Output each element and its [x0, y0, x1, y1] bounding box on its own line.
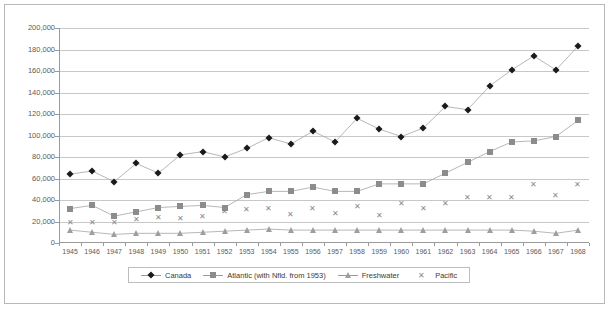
y-axis-tick-mark: [55, 93, 59, 94]
x-axis-tick-mark: [346, 243, 347, 246]
y-axis-tick-mark: [55, 136, 59, 137]
x-axis-tick-mark: [545, 243, 546, 246]
y-axis: 200,000180,000160,000140,000120,000100,0…: [5, 28, 55, 243]
chart-legend: CanadaAtlantic (with Nfld. from 1953)Fre…: [128, 267, 470, 283]
legend-entry: Canada: [141, 271, 191, 280]
x-axis-tick-mark: [479, 243, 480, 246]
legend-marker: [147, 271, 154, 278]
y-axis-tick-mark: [55, 114, 59, 115]
y-axis-tick-mark: [55, 179, 59, 180]
y-axis-tick-label: 180,000: [7, 46, 55, 54]
y-axis-tick-mark: [55, 222, 59, 223]
gridline: [60, 28, 589, 29]
gridline: [60, 157, 589, 158]
x-axis-tick-mark: [59, 243, 60, 246]
x-axis-tick-mark: [412, 243, 413, 246]
x-axis-tick-mark: [523, 243, 524, 246]
chart-root: 200,000180,000160,000140,000120,000100,0…: [0, 0, 611, 310]
x-axis-tick-mark: [214, 243, 215, 246]
x-axis-tick-mark: [103, 243, 104, 246]
y-axis-tick-mark: [55, 157, 59, 158]
x-axis-tick-mark: [258, 243, 259, 246]
gridline: [60, 200, 589, 201]
legend-swatch: [338, 271, 358, 280]
y-axis-tick-label: 20,000: [7, 218, 55, 226]
y-axis-tick-label: 140,000: [7, 89, 55, 97]
gridline: [60, 222, 589, 223]
x-axis-tick-label: 1968: [563, 247, 593, 256]
legend-marker: ✕: [418, 272, 425, 279]
legend-entry: ✕Pacific: [411, 271, 457, 280]
legend-entry: Freshwater: [338, 271, 400, 280]
y-axis-tick-label: 80,000: [7, 153, 55, 161]
legend-swatch: [141, 271, 161, 280]
legend-label: Freshwater: [362, 271, 400, 280]
legend-swatch: [203, 271, 223, 280]
x-axis-tick-mark: [147, 243, 148, 246]
gridline: [60, 179, 589, 180]
x-axis-tick-mark: [589, 243, 590, 246]
y-axis-tick-label: 0: [7, 239, 55, 247]
y-axis-tick-label: 160,000: [7, 67, 55, 75]
legend-label: Pacific: [435, 271, 457, 280]
x-axis-tick-mark: [192, 243, 193, 246]
x-axis-tick-mark: [169, 243, 170, 246]
y-axis-tick-label: 120,000: [7, 110, 55, 118]
legend-label: Atlantic (with Nfld. from 1953): [227, 271, 325, 280]
x-axis-tick-mark: [457, 243, 458, 246]
y-axis-tick-label: 40,000: [7, 196, 55, 204]
y-axis-tick-mark: [55, 28, 59, 29]
x-axis-tick-mark: [324, 243, 325, 246]
y-axis-tick-label: 100,000: [7, 132, 55, 140]
y-axis-tick-mark: [55, 200, 59, 201]
gridline: [60, 93, 589, 94]
gridline: [60, 136, 589, 137]
x-axis-tick-mark: [434, 243, 435, 246]
x-axis-tick-mark: [567, 243, 568, 246]
x-axis-tick-mark: [390, 243, 391, 246]
x-axis-tick-mark: [302, 243, 303, 246]
x-axis-tick-mark: [81, 243, 82, 246]
legend-label: Canada: [165, 271, 191, 280]
x-axis-tick-mark: [280, 243, 281, 246]
legend-marker: [345, 272, 351, 278]
x-axis-tick-mark: [501, 243, 502, 246]
gridline: [60, 114, 589, 115]
x-axis-tick-mark: [236, 243, 237, 246]
legend-swatch: ✕: [411, 271, 431, 280]
y-axis-tick-label: 60,000: [7, 175, 55, 183]
legend-entry: Atlantic (with Nfld. from 1953): [203, 271, 325, 280]
y-axis-tick-mark: [55, 71, 59, 72]
y-axis-tick-mark: [55, 50, 59, 51]
y-axis-tick-label: 200,000: [7, 24, 55, 32]
gridline: [60, 71, 589, 72]
x-axis-tick-mark: [368, 243, 369, 246]
legend-marker: [210, 272, 216, 278]
plot-area: [59, 28, 589, 243]
x-axis-tick-mark: [125, 243, 126, 246]
x-axis: 1945194619471948194919501951195219531954…: [59, 246, 589, 260]
gridline: [60, 50, 589, 51]
